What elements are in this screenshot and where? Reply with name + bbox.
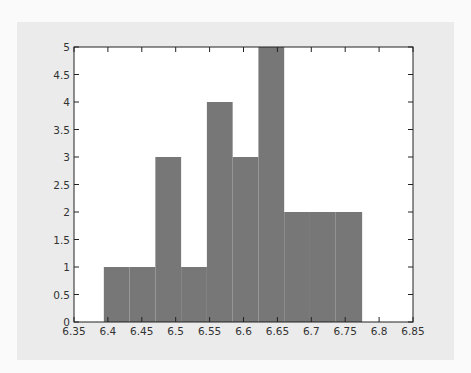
x-tick-label: 6.45 (130, 325, 153, 337)
histogram-bar (284, 212, 310, 322)
histogram-bar (258, 47, 284, 322)
x-tick-label: 6.65 (266, 325, 289, 337)
x-tick-label: 6.8 (371, 325, 388, 337)
x-tick-label: 6.5 (167, 325, 184, 337)
y-tick-label: 1 (63, 261, 70, 273)
x-tick-label: 6.7 (303, 325, 320, 337)
histogram-bar (207, 102, 233, 322)
y-tick-label: 4.5 (53, 69, 70, 81)
x-tick-label: 6.55 (198, 325, 221, 337)
histogram-bar (181, 267, 207, 322)
y-tick-label: 0 (63, 316, 70, 328)
x-tick-label: 6.75 (334, 325, 357, 337)
x-tick-label: 6.6 (235, 325, 252, 337)
histogram-bar (155, 157, 181, 322)
y-tick-label: 2.5 (53, 179, 70, 191)
x-tick-label: 6.4 (100, 325, 117, 337)
y-tick-label: 4 (63, 96, 70, 108)
y-tick-label: 1.5 (53, 234, 70, 246)
y-tick-label: 5 (63, 41, 70, 53)
histogram-bar (310, 212, 336, 322)
histogram-bar (336, 212, 362, 322)
y-tick-label: 3.5 (53, 124, 70, 136)
histogram-chart: 6.356.46.456.56.556.66.656.76.756.86.850… (0, 0, 471, 373)
histogram-bar (233, 157, 259, 322)
y-tick-label: 3 (63, 151, 70, 163)
histogram-bar (130, 267, 156, 322)
y-tick-label: 0.5 (53, 289, 70, 301)
x-tick-label: 6.85 (401, 325, 424, 337)
histogram-bar (104, 267, 130, 322)
y-tick-label: 2 (63, 206, 70, 218)
